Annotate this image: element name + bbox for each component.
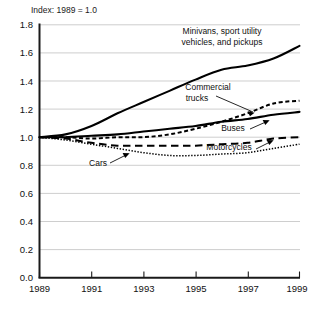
x-tick-label: 1991 — [81, 283, 102, 294]
x-tick-label: 1993 — [133, 283, 154, 294]
x-tick-label: 1995 — [186, 283, 207, 294]
annotation-minivans: Minivans, sport utility vehicles, and pi… — [182, 26, 263, 47]
y-axis-labels: 1.8 1.6 1.4 1.2 1.0 0.8 0.6 0.4 0.2 0.0 — [20, 19, 33, 283]
y-tick-label: 0.4 — [20, 216, 33, 227]
y-tick-label: 1.2 — [20, 104, 33, 115]
x-tick-label: 1997 — [238, 283, 259, 294]
chart-container: Index: 1989 = 1.0 1.8 1.6 1.4 1.2 1.0 0.… — [0, 0, 317, 309]
leader-arrow-cars — [123, 153, 130, 158]
x-axis-labels: 1989 1991 1993 1995 1997 1999 — [29, 283, 308, 294]
annotation-trucks-line1: Commercial — [185, 82, 230, 92]
y-tick-label: 1.4 — [20, 76, 33, 87]
annotation-motorcycles-label: Motorcycles — [206, 142, 251, 152]
leader-arrow-buses — [263, 120, 270, 125]
y-tick-label: 1.8 — [20, 19, 33, 30]
annotation-minivans-line1: Minivans, sport utility — [183, 26, 263, 36]
y-tick-label: 0.6 — [20, 188, 33, 199]
y-tick-label: 0.2 — [20, 244, 33, 255]
annotation-cars-label: Cars — [89, 158, 107, 168]
y-tick-label: 0.8 — [20, 160, 33, 171]
series-line-motorcycles — [40, 137, 300, 146]
series-line-commercial-trucks — [40, 101, 300, 139]
y-tick-label: 0.0 — [20, 272, 33, 283]
leader-arrow-motorcycles — [267, 140, 274, 145]
annotation-cars: Cars — [89, 153, 130, 168]
annotation-commercial-trucks: Commercial trucks — [185, 82, 254, 116]
x-tick-label: 1999 — [286, 283, 307, 294]
chart-title: Index: 1989 = 1.0 — [31, 5, 97, 15]
y-tick-label: 1.6 — [20, 47, 33, 58]
annotation-trucks-line2: trucks — [186, 93, 209, 103]
line-chart: Index: 1989 = 1.0 1.8 1.6 1.4 1.2 1.0 0.… — [0, 0, 317, 309]
y-tick-label: 1.0 — [20, 132, 33, 143]
annotation-minivans-line2: vehicles, and pickups — [182, 37, 263, 47]
annotation-buses-label: Buses — [221, 123, 245, 133]
series-line-minivans — [40, 46, 300, 137]
series-group — [40, 46, 300, 156]
x-tick-label: 1989 — [29, 283, 50, 294]
